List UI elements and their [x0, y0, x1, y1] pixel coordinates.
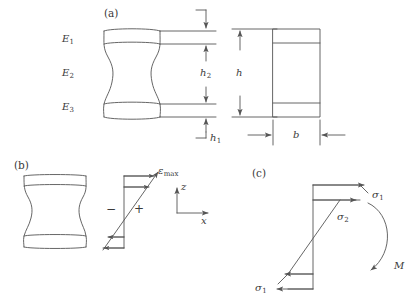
- stress-label-sigma2: σ2: [337, 212, 349, 224]
- stress-label-sigma1-bottom-symbol: σ: [255, 282, 262, 293]
- panel-a-cross-section: [273, 29, 320, 117]
- figure-container: (a) E1 E2 E3 h2 h1 h b (b) εmax − + z x …: [0, 0, 418, 305]
- dimension-label-h: h: [236, 68, 242, 78]
- stress-label-sigma2-symbol: σ: [337, 211, 344, 222]
- axis-label-x: x: [201, 216, 207, 226]
- panel-a-specimen-outline: [104, 29, 161, 120]
- strain-label-epsilon-max: εmax: [158, 166, 178, 178]
- axis-label-z: z: [181, 182, 186, 192]
- dimension-label-h2: h2: [200, 68, 211, 80]
- panel-a-top-dimension: [160, 10, 216, 31]
- panel-b-specimen-outline: [24, 175, 87, 249]
- modulus-label-e1: E1: [62, 34, 74, 46]
- strain-sign-negative: −: [106, 203, 116, 215]
- moment-label-m: M: [394, 261, 404, 271]
- panel-c-stress-diagram: [277, 185, 368, 289]
- dimension-label-h1: h1: [210, 133, 221, 145]
- modulus-label-e3: E3: [62, 102, 74, 114]
- stress-label-sigma1-bottom: σ1: [255, 283, 267, 295]
- figure-drawing: [0, 0, 418, 305]
- panel-label-b: (b): [14, 160, 29, 171]
- panel-label-c: (c): [252, 168, 266, 179]
- panel-a-h1-dimension: [160, 117, 216, 138]
- dimension-label-b: b: [293, 130, 299, 140]
- strain-sign-positive: +: [134, 203, 144, 215]
- panel-c-moment-arc: [368, 203, 388, 270]
- stress-label-sigma1-top-symbol: σ: [372, 189, 379, 200]
- stress-label-sigma1-top: σ1: [372, 190, 384, 202]
- panel-label-a: (a): [104, 8, 118, 19]
- modulus-label-e2: E2: [62, 68, 74, 80]
